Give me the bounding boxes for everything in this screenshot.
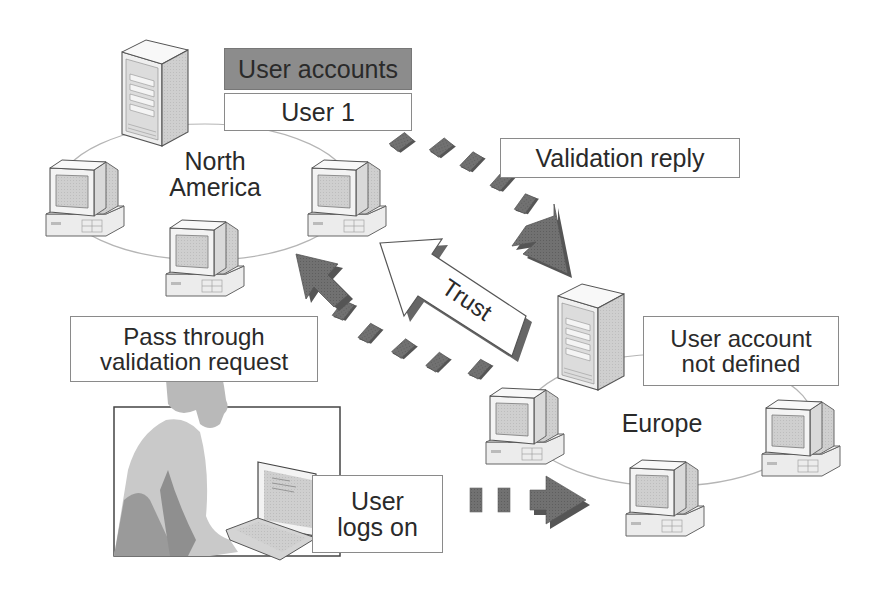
pass-through-line2: validation request (100, 349, 288, 374)
user-logs-on-arrow (470, 476, 590, 529)
pass-through-validation-label: Pass through validation request (70, 316, 318, 382)
user-accounts-header: User accounts (224, 48, 412, 90)
validation-reply-text: Validation reply (535, 145, 704, 171)
europe-workstation-bottom-icon (626, 460, 704, 536)
europe-workstation-left-icon (486, 388, 564, 464)
validation-reply-label: Validation reply (500, 138, 740, 178)
north-america-region-label: North America (160, 148, 270, 201)
not-defined-line2: not defined (682, 351, 801, 376)
north-america-workstation-bottom-icon (166, 220, 244, 296)
europe-workstation-right-icon (762, 400, 840, 476)
europe-text: Europe (622, 409, 703, 437)
europe-server-icon (558, 284, 624, 390)
pass-through-line1: Pass through (123, 324, 264, 349)
user-at-laptop-illustration (114, 366, 340, 560)
north-america-line2: America (160, 174, 270, 200)
user-logs-on-label: User logs on (312, 475, 443, 553)
north-america-line1: North (160, 148, 270, 174)
trust-diagram: User accounts User 1 North America Valid… (0, 0, 882, 595)
north-america-workstation-right-icon (308, 160, 386, 236)
europe-region-label: Europe (612, 410, 712, 436)
user-1-text: User 1 (281, 99, 355, 125)
user-logs-on-line2: logs on (337, 514, 418, 540)
user-accounts-header-text: User accounts (238, 56, 398, 82)
user-account-not-defined-label: User account not defined (643, 316, 839, 386)
north-america-server-icon (122, 40, 188, 146)
user-logs-on-line1: User (351, 488, 404, 514)
north-america-workstation-left-icon (46, 160, 124, 236)
not-defined-line1: User account (670, 326, 811, 351)
user-1-label: User 1 (224, 93, 412, 131)
